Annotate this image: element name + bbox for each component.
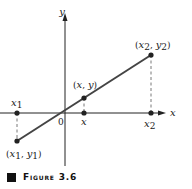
label-x1: x1 [11,97,22,110]
y-axis-label: y [58,6,65,17]
label-x2: x2 [144,118,155,131]
point-x-y [81,95,86,100]
label-point-x2-y2: (x2, y2) [135,39,171,52]
point-x1-y1 [14,138,19,143]
label-x: x [81,116,87,127]
label-point-x1-y1: (x1, y1) [6,148,42,161]
x-axis-label: x [170,107,176,118]
caption-text: Figure 3.6 [23,172,77,182]
caption-square-icon [7,173,16,182]
origin-label: 0 [58,117,64,127]
axis-point-x2 [148,110,153,115]
figure-caption: Figure 3.6 [7,172,77,182]
axis-point-x1 [14,110,19,115]
coordinate-diagram: y x 0 x1 x x2 (x1, y1) (x, y) (x2, y2) [0,0,192,189]
point-x2-y2 [148,52,153,57]
label-point-x-y: (x, y) [73,79,97,90]
axis-point-x [81,110,86,115]
x-axis-arrow-icon [158,111,166,116]
